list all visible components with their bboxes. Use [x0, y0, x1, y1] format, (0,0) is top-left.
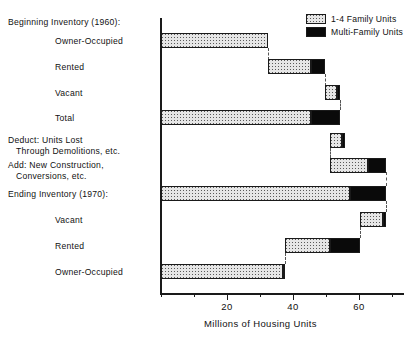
- row-label-rented-1970: Rented: [55, 241, 84, 252]
- legend-item-multi-family: Multi-Family Units: [306, 27, 403, 37]
- row-label-rented-1960: Rented: [55, 62, 84, 73]
- legend-label-multi-family: Multi-Family Units: [331, 27, 403, 37]
- legend-swatch-multi-family-icon: [306, 27, 326, 37]
- row-label-deduct-line2: Through Demolitions, etc.: [16, 146, 120, 157]
- legend-item-small-family: 1-4 Family Units: [306, 14, 403, 24]
- bar-rented-1960: [268, 59, 325, 74]
- bar-segment-small-family: [161, 264, 283, 279]
- bar-owner-occupied-1970: [161, 264, 285, 279]
- cropped-title-strip: [0, 0, 409, 7]
- x-tick-20: [227, 293, 228, 300]
- bar-segment-small-family: [330, 133, 342, 148]
- bar-segment-multi-family: [283, 264, 285, 279]
- x-tick-10: [194, 293, 195, 297]
- bar-segment-multi-family: [311, 110, 340, 125]
- waterfall-connector-4: [330, 148, 331, 158]
- row-label-vacant-1960: Vacant: [55, 88, 83, 99]
- row-label-deduct-line1: Deduct: Units Lost: [8, 135, 83, 146]
- bar-segment-small-family: [285, 238, 330, 253]
- x-tick-70: [392, 293, 393, 297]
- bar-rented-1970: [285, 238, 360, 253]
- x-tick-0: [161, 293, 162, 297]
- row-label-owner-occupied-1970: Owner-Occupied: [55, 267, 123, 278]
- x-tick-40: [293, 293, 294, 300]
- bar-total-1960: [161, 110, 340, 125]
- bar-segment-small-family: [161, 33, 268, 48]
- x-axis-title: Millions of Housing Units: [0, 318, 409, 329]
- waterfall-connector-6: [386, 201, 387, 212]
- bar-add-new-construction: [330, 158, 386, 173]
- bar-segment-small-family: [161, 186, 350, 201]
- legend-swatch-1-4-family-icon: [306, 14, 326, 24]
- x-tick-30: [260, 293, 261, 297]
- bar-segment-multi-family: [337, 85, 340, 100]
- bar-segment-small-family: [325, 85, 337, 100]
- x-tick-label-40: 40: [287, 301, 298, 312]
- bar-segment-multi-family: [330, 238, 360, 253]
- bar-segment-small-family: [330, 158, 368, 173]
- bar-segment-multi-family: [350, 186, 386, 201]
- row-label-ending-inventory: Ending Inventory (1970):: [8, 189, 108, 200]
- bar-segment-multi-family: [342, 133, 345, 148]
- bar-segment-multi-family: [383, 212, 386, 227]
- row-label-beginning-inventory: Beginning Inventory (1960):: [8, 17, 120, 28]
- x-axis-title-text: Millions of Housing Units: [204, 318, 317, 329]
- row-label-total-1960: Total: [55, 113, 74, 124]
- y-axis-line: [160, 18, 162, 294]
- bar-vacant-1960: [325, 85, 340, 100]
- x-tick-60: [359, 293, 360, 300]
- x-tick-50: [326, 293, 327, 297]
- x-tick-label-60: 60: [353, 301, 364, 312]
- row-label-owner-occupied-1960: Owner-Occupied: [55, 36, 123, 47]
- bar-owner-occupied-1960: [161, 33, 268, 48]
- chart-container: 1-4 Family Units Multi-Family Units Begi…: [0, 0, 409, 339]
- row-label-add-line1: Add: New Construction,: [8, 160, 104, 171]
- chart-legend: 1-4 Family Units Multi-Family Units: [306, 14, 403, 37]
- waterfall-connector-3: [340, 100, 341, 110]
- row-label-add-line2: Conversions, etc.: [16, 171, 87, 182]
- bar-segment-multi-family: [368, 158, 386, 173]
- bar-deduct-demolitions: [330, 133, 345, 148]
- waterfall-connector-5: [386, 172, 387, 186]
- waterfall-connector-8: [285, 253, 286, 264]
- bar-segment-small-family: [268, 59, 311, 74]
- x-tick-label-20: 20: [221, 301, 232, 312]
- waterfall-connector-7: [360, 227, 361, 238]
- bar-segment-multi-family: [311, 59, 325, 74]
- bar-segment-small-family: [161, 110, 311, 125]
- legend-label-1-4-family: 1-4 Family Units: [331, 14, 396, 24]
- bar-vacant-1970: [360, 212, 386, 227]
- x-axis-line: [160, 293, 404, 295]
- bar-segment-small-family: [360, 212, 383, 227]
- row-label-vacant-1970: Vacant: [55, 215, 83, 226]
- bar-total-1970: [161, 186, 386, 201]
